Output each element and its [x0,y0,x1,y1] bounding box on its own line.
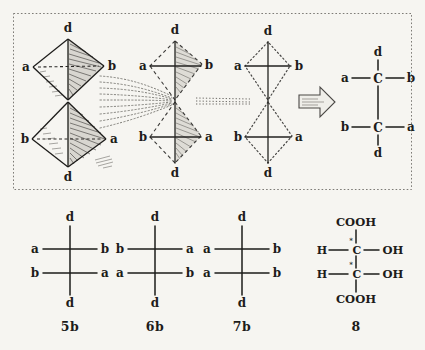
s6b-lower-left-label: a [116,266,124,280]
s6b-bottom-label: d [151,296,160,310]
structure-8-tartaric-acid: COOH H * C OH H * C OH COOH 8 [317,215,404,334]
tetra-upper-top-label: d [64,21,73,35]
flat-upper-shade [175,41,202,100]
cross-lower-right-label: a [295,130,303,144]
flat-bottom-label: d [171,166,180,180]
fischer-c-upper-left-label: a [341,71,349,85]
s5b-bottom-label: d [66,296,75,310]
structure-cross-projection: d a b b a d [234,24,303,180]
fischer-lower-carbon-label: C [373,121,383,135]
block-arrow-right [299,87,335,117]
s7b-lower-left-label: a [203,266,211,280]
tetra-upper-right-label: b [108,59,116,73]
s5b-caption: 5b [61,319,79,334]
s8-caption: 8 [351,319,360,334]
fischer-c-top-label: d [374,45,383,59]
s5b-top-label: d [66,210,75,224]
cross-upper-left-label: a [234,59,242,73]
lower-left-face-hatching [40,128,63,154]
fischer-c-lower-right-label: a [407,120,415,134]
upper-shaded-face [68,39,104,100]
fischer-upper-carbon-label: C [373,72,383,86]
projection-fan-left [100,76,172,128]
flat-lower-right-label: a [205,130,213,144]
s6b-upper-left-label: b [116,242,124,256]
s5b-lower-right-label: a [101,266,109,280]
s7b-upper-right-label: b [273,242,281,256]
structure-7b: d a b a b d 7b [203,210,281,334]
cross-top-label: d [264,24,273,38]
structure-fischer-carbons: d a C b b C a d [341,45,415,160]
s7b-bottom-label: d [238,296,247,310]
flat-top-label: d [171,23,180,37]
tetra-lower-left-label: b [21,132,29,146]
s8-lower-oh-label: OH [383,267,404,281]
flat-upper-right-label: b [205,58,213,72]
lower-tetrahedron [32,102,113,168]
s5b-lower-left-label: b [31,266,39,280]
s7b-top-label: d [238,210,247,224]
tetra-lower-right-label: a [110,132,118,146]
s6b-lower-right-label: b [186,266,194,280]
s8-upper-carbon-label: C [353,244,362,257]
s6b-caption: 6b [146,319,164,334]
lower-right-scribble [95,156,113,168]
structure-double-tetrahedron: d a b b a d [21,21,118,184]
s7b-caption: 7b [233,319,251,334]
s6b-top-label: d [151,210,160,224]
s8-bottom-group-label: COOH [336,292,376,306]
fischer-c-lower-left-label: b [341,120,349,134]
upper-tetrahedron [33,39,104,100]
s6b-upper-right-label: a [186,242,194,256]
structure-flattened-tetrahedron: d a b b a d [139,23,213,180]
flat-upper-left-label: a [139,59,147,73]
fischer-c-upper-right-label: b [407,71,415,85]
tetra-lower-bottom-label: d [64,170,73,184]
figure-canvas: d a b b a d [0,0,425,350]
s5b-upper-right-label: b [101,242,109,256]
s5b-upper-left-label: a [31,242,39,256]
s7b-lower-right-label: b [273,266,281,280]
figure-svg: d a b b a d [0,0,425,350]
fischer-c-bottom-label: d [374,146,383,160]
cross-bottom-label: d [264,166,273,180]
s8-top-group-label: COOH [336,215,376,229]
s8-lower-carbon-label: C [353,268,362,281]
s7b-upper-left-label: a [203,242,211,256]
cross-upper-right-label: b [295,59,303,73]
projection-arrow-middle [196,98,250,104]
s8-upper-oh-label: OH [383,243,404,257]
s8-upper-h-label: H [317,244,327,257]
tetra-upper-left-label: a [22,60,30,74]
flat-lower-left-label: b [139,130,147,144]
s8-lower-h-label: H [317,268,327,281]
structure-6b: d b a a b d 6b [116,210,194,334]
structure-5b: d a b b a d 5b [31,210,109,334]
cross-lower-left-label: b [234,130,242,144]
